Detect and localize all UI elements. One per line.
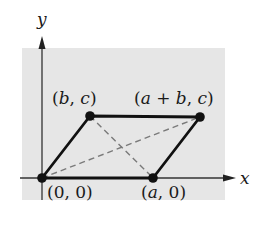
vertex-abc <box>195 112 205 122</box>
parallelogram-diagram: y x (b, c) (a + b, c) (0, 0) (a, 0) <box>0 0 268 225</box>
x-axis-label: x <box>240 168 250 188</box>
label-abc: (a + b, c) <box>134 88 214 108</box>
label-bc: (b, c) <box>52 88 97 108</box>
x-axis-arrow-icon <box>223 175 236 182</box>
label-a0: (a, 0) <box>141 182 186 202</box>
y-axis-arrow-icon <box>39 36 46 49</box>
label-origin: (0, 0) <box>47 182 93 202</box>
y-axis-label: y <box>36 9 47 29</box>
vertex-bc <box>85 111 95 121</box>
vertex-origin <box>37 173 47 183</box>
